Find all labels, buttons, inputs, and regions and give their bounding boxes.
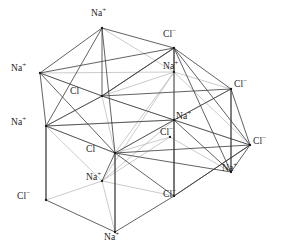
ion-symbol: Cl (163, 189, 172, 199)
label-cl-right-upper: Cl− (234, 80, 247, 90)
ion-symbol: Na (104, 232, 115, 242)
lattice-edge-back (115, 72, 174, 153)
label-na-lower-center: Na+ (86, 173, 101, 183)
lattice-edge-front (46, 200, 115, 232)
lattice-edge-front (174, 48, 231, 89)
label-cl-top-right: Cl− (163, 30, 176, 40)
ion-node-cl_top_right (173, 47, 175, 49)
ion-charge: − (169, 125, 173, 133)
label-cl-bottom-left: Cl− (17, 192, 30, 202)
ion-symbol: Cl (163, 29, 172, 39)
ion-node-na_left_upper (39, 72, 41, 74)
lattice-edge-front (40, 28, 102, 73)
ion-node-na_top (101, 27, 103, 29)
ion-symbol: Na (176, 111, 187, 121)
lattice-edge-front (40, 73, 115, 153)
label-cl-left-lower: Cl (86, 145, 95, 155)
label-cl-center-lower: Cl− (160, 128, 173, 138)
ion-charge: − (26, 189, 30, 197)
lattice-edge-front (102, 96, 174, 120)
label-na-left-upper: Na+ (11, 64, 26, 74)
lattice-edge-front (102, 89, 231, 96)
lattice-edge-back (102, 181, 115, 232)
label-na-right-lower: Na+ (222, 164, 237, 174)
lattice-edge-front (231, 89, 250, 145)
lattice-edge-front (40, 73, 46, 126)
ion-node-cl_left_lower (114, 152, 116, 154)
ion-symbol: Cl (70, 86, 79, 96)
ion-charge: + (102, 6, 106, 14)
lattice-edge-front (174, 120, 250, 145)
lattice-edge-front (46, 120, 174, 126)
label-cl-bottom-mid: Cl− (163, 190, 176, 200)
back-edge-group (40, 28, 250, 232)
lattice-edge-front (46, 126, 115, 153)
ion-symbol: Na (222, 163, 233, 173)
ion-symbol: Na (91, 8, 102, 18)
ion-charge: + (115, 230, 119, 238)
ion-node-na_center_right (173, 119, 175, 121)
ion-symbol: Na (11, 117, 22, 127)
ion-symbol: Cl (234, 79, 243, 89)
front-edge-group (40, 28, 250, 232)
lattice-edge-front (115, 145, 250, 153)
lattice-edge-front (174, 145, 250, 196)
label-na-top: Na+ (91, 9, 106, 19)
ion-node-na_left_mid (45, 125, 47, 127)
ion-node-cl_bottom_left (45, 199, 47, 201)
ion-node-group (39, 27, 251, 233)
ion-symbol: Na (11, 63, 22, 73)
ion-charge: − (243, 77, 247, 85)
label-cl-right-lower: Cl− (253, 137, 266, 147)
ion-symbol: Cl (160, 127, 169, 137)
ion-charge: + (22, 61, 26, 69)
label-na-bottom: Na+ (104, 233, 119, 243)
ion-charge: − (262, 134, 266, 142)
ion-charge: + (174, 59, 178, 67)
ion-symbol: Cl (253, 136, 262, 146)
ion-symbol: Na (86, 172, 97, 182)
ion-charge: + (233, 161, 237, 169)
lattice-edges-svg (0, 0, 282, 252)
ion-charge: − (172, 187, 176, 195)
ion-charge: − (172, 27, 176, 35)
lattice-edge-front (102, 28, 115, 153)
label-na-mid-upper: Na+ (163, 62, 178, 72)
ion-symbol: Cl (17, 191, 26, 201)
ion-node-cl_right_lower (249, 144, 251, 146)
lattice-edge-back (102, 96, 115, 153)
ion-node-cl_center (101, 95, 103, 97)
label-na-center-right: Na+ (176, 112, 191, 122)
lattice-edge-back (46, 181, 102, 200)
label-na-left-mid: Na+ (11, 118, 26, 128)
ion-symbol: Cl (86, 144, 95, 154)
ion-symbol: Na (163, 61, 174, 71)
lattice-edge-front (115, 196, 174, 232)
crystal-lattice-figure: Na+Cl−Na+Na+Cl−ClNa+Na+Cl−Cl−ClNa+Na+Cl−… (0, 0, 282, 252)
ion-charge: + (97, 170, 101, 178)
ion-charge: + (22, 115, 26, 123)
label-cl-center: Cl (70, 87, 79, 97)
ion-node-cl_right_upper (230, 88, 232, 90)
lattice-edge-front (40, 48, 174, 73)
ion-charge: + (187, 109, 191, 117)
